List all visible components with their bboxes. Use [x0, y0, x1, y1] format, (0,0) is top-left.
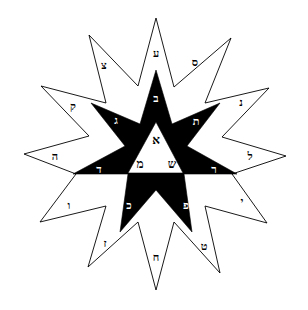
outer-letter-wnw: ק [70, 100, 76, 113]
outer-letter-top: ע [153, 47, 159, 60]
outer-letter-w: ה [52, 150, 58, 163]
outer-letter-nne: ס [192, 56, 198, 69]
inner-letter-top: ב [153, 92, 158, 105]
outer-letter-sw: ו [68, 199, 71, 212]
center-letter-base-left: מ [136, 157, 143, 171]
inner-letter-upper-right: ת [193, 115, 200, 128]
outer-letter-ssw: ז [103, 237, 106, 250]
outer-letter-s: ח [153, 251, 160, 264]
outer-letter-nw: צ [101, 59, 107, 72]
inner-letter-right: ר [211, 163, 216, 176]
outer-letter-e: ל [246, 150, 252, 163]
inner-letter-lower-right: פ [183, 199, 189, 212]
outer-letter-se: ט [201, 240, 208, 253]
twelve-point-star-diagram: ע ס נ ל י ט ח ז ו ה ק צ ב ת ר פ כ ד ג א … [0, 0, 308, 310]
outer-letter-ne: נ [239, 96, 243, 109]
inner-letter-left: ד [96, 163, 101, 176]
inner-letter-lower-left: כ [126, 199, 131, 212]
outer-letter-ese: י [241, 195, 244, 208]
center-letter-apex: א [152, 133, 160, 147]
inner-letter-upper-left: ג [114, 114, 118, 127]
center-letter-base-right: ש [168, 157, 177, 171]
